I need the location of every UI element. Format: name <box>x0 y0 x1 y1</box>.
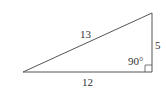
right-angle-marker <box>145 65 152 72</box>
vertical-leg-label: 5 <box>155 39 161 51</box>
right-triangle-diagram: 13 5 12 90° <box>0 0 166 97</box>
hypotenuse-label: 13 <box>80 28 92 40</box>
right-angle-label: 90° <box>128 55 143 67</box>
horizontal-leg-label: 12 <box>82 76 93 88</box>
